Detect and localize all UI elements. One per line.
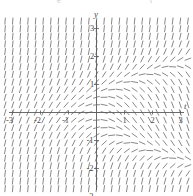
slope-segment <box>187 186 188 192</box>
slope-segment <box>119 186 120 192</box>
slope-segment <box>162 73 167 76</box>
slope-segment <box>12 163 13 169</box>
slope-segment <box>20 186 21 192</box>
slope-segment <box>65 56 66 62</box>
slope-segment <box>172 26 173 32</box>
slope-segment <box>81 26 82 32</box>
slope-segment <box>35 49 36 55</box>
slope-segment <box>177 66 183 68</box>
slope-segment <box>187 178 189 184</box>
slope-segment <box>81 41 82 47</box>
slope-segment <box>35 71 37 77</box>
slope-segment <box>126 163 128 169</box>
slope-segment <box>19 125 21 131</box>
slope-segment <box>28 49 29 55</box>
slope-segment <box>28 26 29 32</box>
slope-segment <box>34 102 37 108</box>
slope-segment <box>134 49 136 55</box>
slope-segment <box>73 163 74 169</box>
slope-segment <box>186 49 189 54</box>
slope-segment <box>164 102 166 108</box>
slope-segment <box>156 117 159 123</box>
slope-segment <box>27 163 28 169</box>
slope-segment <box>4 79 5 85</box>
slope-segment <box>109 135 115 136</box>
slope-segment <box>58 163 59 169</box>
slope-segment <box>179 87 181 93</box>
slope-segment <box>124 143 130 144</box>
slope-segment <box>12 87 14 93</box>
slope-segment <box>140 156 144 160</box>
t-axis-tick-label: -2 <box>34 116 41 125</box>
slope-segment <box>66 33 67 39</box>
slope-segment <box>43 163 44 169</box>
slope-segment <box>57 125 60 130</box>
slope-segment <box>4 140 5 146</box>
slope-segment <box>165 18 166 24</box>
slope-segment <box>73 170 74 176</box>
y-axis-tick-label: 1 <box>90 80 94 89</box>
slope-segment <box>12 41 13 47</box>
slope-segment <box>72 133 75 138</box>
slope-segment <box>134 41 135 47</box>
slope-segment <box>35 140 37 146</box>
slope-segment <box>111 186 112 192</box>
slope-segment <box>4 132 6 138</box>
slope-segment <box>157 33 158 39</box>
slope-segment <box>57 87 60 93</box>
slope-segment <box>118 64 121 69</box>
slope-segment <box>19 94 21 100</box>
slope-segment <box>172 102 174 108</box>
slope-segment <box>172 33 173 39</box>
slope-segment <box>170 72 175 76</box>
slope-segment <box>20 33 21 39</box>
slope-segment <box>43 64 44 70</box>
slope-segment <box>58 170 59 176</box>
slope-segment <box>86 119 92 121</box>
slope-segment <box>88 33 89 39</box>
slope-segment <box>20 41 21 47</box>
slope-segment <box>149 41 150 47</box>
slope-segment <box>4 102 6 108</box>
slope-segment <box>88 72 91 78</box>
slope-segment <box>132 125 136 130</box>
slope-segment <box>64 125 68 130</box>
slope-segment <box>81 33 82 39</box>
slope-segment <box>101 104 107 105</box>
slope-segment <box>65 71 67 77</box>
slope-segment <box>148 102 151 107</box>
slope-segment <box>126 33 127 39</box>
slope-segment <box>156 87 159 92</box>
slope-segment <box>12 140 13 146</box>
slope-segment <box>73 186 74 192</box>
slope-segment <box>141 102 144 107</box>
t-axis-tick-label: -3 <box>6 116 13 125</box>
slope-segment <box>49 117 52 122</box>
slope-segment <box>126 170 128 176</box>
slope-segment <box>111 49 112 55</box>
slope-segment <box>42 125 45 131</box>
slope-segment <box>110 64 113 70</box>
slope-segment <box>35 56 36 62</box>
slope-segment <box>5 163 6 169</box>
slope-segment <box>73 64 75 70</box>
slope-segment <box>73 155 75 161</box>
slope-segment <box>5 49 6 55</box>
slope-segment <box>103 64 105 70</box>
y-axis-tick-label: 2 <box>90 52 94 61</box>
slope-segment <box>72 140 75 146</box>
slope-segment <box>73 18 74 24</box>
slope-segment <box>58 26 59 32</box>
slope-segment <box>49 125 52 130</box>
slope-segment <box>142 41 143 47</box>
slope-segment <box>155 141 159 145</box>
slope-segment <box>49 102 52 107</box>
slope-segment <box>111 56 113 62</box>
slope-segment <box>50 71 52 77</box>
slope-segment <box>164 125 167 131</box>
slope-segment <box>187 110 189 116</box>
slope-segment <box>125 149 130 153</box>
slope-segment <box>73 72 75 78</box>
slope-segment <box>187 132 189 138</box>
slope-segment <box>58 148 60 154</box>
